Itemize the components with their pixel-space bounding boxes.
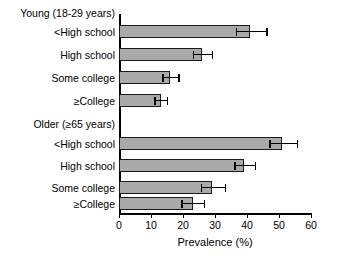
bar-older-2 (119, 181, 212, 194)
x-tick-label: 60 (296, 219, 326, 231)
bar-row (119, 137, 311, 150)
x-tick (311, 213, 312, 218)
error-bar-line (234, 165, 255, 166)
error-bar-line (269, 143, 296, 144)
group-label-older: Older (≥65 years) (0, 119, 115, 130)
error-bar-cap-upper (167, 97, 168, 105)
error-bar-line (236, 31, 266, 32)
bar-older-0 (119, 137, 282, 150)
x-tick (183, 213, 184, 218)
x-tick (279, 213, 280, 218)
error-bar-cap-upper (255, 162, 256, 170)
error-bar-line (181, 203, 203, 204)
x-axis-title: Prevalence (%) (119, 236, 311, 248)
bar-young-1 (119, 48, 202, 61)
category-label-young-1: High school (0, 50, 115, 61)
error-bar-line (162, 77, 178, 78)
error-bar-cap-upper (178, 74, 179, 82)
x-tick-label: 20 (168, 219, 198, 231)
x-tick-label: 10 (136, 219, 166, 231)
bar-row (119, 181, 311, 194)
x-tick-label: 0 (104, 219, 134, 231)
x-tick (151, 213, 152, 218)
error-bar-cap-upper (212, 51, 213, 59)
x-tick-label: 30 (200, 219, 230, 231)
category-label-older-2: Some college (0, 183, 115, 194)
error-bar-cap-lower (181, 200, 182, 208)
x-tick (247, 213, 248, 218)
error-bar-cap-lower (236, 28, 237, 36)
bar-row (119, 159, 311, 172)
bar-row (119, 48, 311, 61)
category-label-older-0: <High school (0, 139, 115, 150)
category-label-young-3: ≥College (0, 96, 115, 107)
error-bar-cap-lower (269, 140, 270, 148)
error-bar-line (193, 54, 212, 55)
category-label-older-1: High school (0, 161, 115, 172)
error-bar-cap-lower (162, 74, 163, 82)
group-label-young: Young (18-29 years) (0, 8, 115, 19)
x-tick (119, 213, 120, 218)
x-tick (215, 213, 216, 218)
error-bar-cap-lower (193, 51, 194, 59)
error-bar-line (154, 100, 167, 101)
x-tick-label: 40 (232, 219, 262, 231)
bar-row (119, 197, 311, 210)
category-label-older-3: ≥College (0, 199, 115, 210)
error-bar-cap-upper (266, 28, 267, 36)
category-label-young-2: Some college (0, 73, 115, 84)
bar-row (119, 94, 311, 107)
error-bar-cap-upper (297, 140, 298, 148)
bar-row (119, 71, 311, 84)
prevalence-bar-chart: Young (18-29 years) <High school High sc… (0, 0, 337, 263)
bar-row (119, 25, 311, 38)
bar-young-0 (119, 25, 250, 38)
error-bar-line (201, 187, 225, 188)
error-bar-cap-lower (201, 184, 202, 192)
error-bar-cap-upper (204, 200, 205, 208)
category-label-young-0: <High school (0, 27, 115, 38)
x-tick-label: 50 (264, 219, 294, 231)
error-bar-cap-upper (225, 184, 226, 192)
bar-older-1 (119, 159, 244, 172)
error-bar-cap-lower (154, 97, 155, 105)
error-bar-cap-lower (234, 162, 235, 170)
